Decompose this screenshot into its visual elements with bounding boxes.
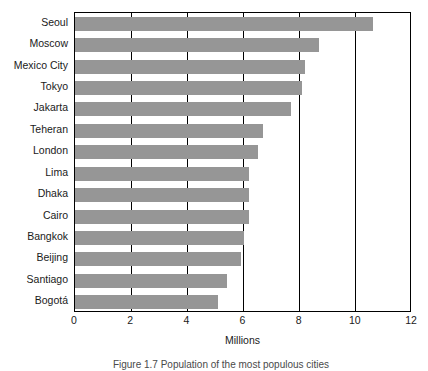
bar-bogotá xyxy=(75,295,218,309)
bar-teheran xyxy=(75,124,263,138)
bar-row xyxy=(75,81,410,95)
category-label-london: London xyxy=(0,145,68,156)
bar-beijing xyxy=(75,252,241,266)
bar-row xyxy=(75,17,410,31)
bar-tokyo xyxy=(75,81,302,95)
category-label-mexico-city: Mexico City xyxy=(0,60,68,71)
category-label-seoul: Seoul xyxy=(0,17,68,28)
bar-cairo xyxy=(75,210,249,224)
category-label-beijing: Beijing xyxy=(0,252,68,263)
category-label-tokyo: Tokyo xyxy=(0,81,68,92)
category-label-teheran: Teheran xyxy=(0,124,68,135)
bar-moscow xyxy=(75,38,319,52)
bar-series xyxy=(75,13,410,311)
x-tick-8: 8 xyxy=(296,314,302,326)
category-label-lima: Lima xyxy=(0,167,68,178)
bar-london xyxy=(75,145,258,159)
category-label-bogotá: Bogotá xyxy=(0,295,68,306)
bar-seoul xyxy=(75,17,373,31)
bar-dhaka xyxy=(75,188,249,202)
bar-row xyxy=(75,295,410,309)
bar-row xyxy=(75,274,410,288)
bar-lima xyxy=(75,167,249,181)
category-label-dhaka: Dhaka xyxy=(0,188,68,199)
category-label-bangkok: Bangkok xyxy=(0,231,68,242)
bar-mexico-city xyxy=(75,60,305,74)
x-tick-2: 2 xyxy=(127,314,133,326)
x-tick-4: 4 xyxy=(183,314,189,326)
x-tick-12: 12 xyxy=(405,314,417,326)
x-tick-0: 0 xyxy=(71,314,77,326)
bar-row xyxy=(75,188,410,202)
bar-row xyxy=(75,145,410,159)
bar-row xyxy=(75,210,410,224)
category-label-cairo: Cairo xyxy=(0,210,68,221)
bar-jakarta xyxy=(75,102,291,116)
category-label-moscow: Moscow xyxy=(0,38,68,49)
bar-row xyxy=(75,231,410,245)
bar-santiago xyxy=(75,274,227,288)
bar-bangkok xyxy=(75,231,244,245)
category-axis-labels: SeoulMoscowMexico CityTokyoJakartaTehera… xyxy=(0,12,68,312)
category-label-santiago: Santiago xyxy=(0,274,68,285)
bar-row xyxy=(75,124,410,138)
x-axis-title: Millions xyxy=(74,334,411,346)
x-tick-6: 6 xyxy=(240,314,246,326)
bar-row xyxy=(75,252,410,266)
plot-area xyxy=(74,12,411,312)
x-axis-tick-labels: 024681012 xyxy=(0,314,428,328)
figure-caption: Figure 1.7 Population of the most populo… xyxy=(26,359,416,371)
bar-row xyxy=(75,167,410,181)
bar-row xyxy=(75,38,410,52)
bar-row xyxy=(75,60,410,74)
plot-inner xyxy=(75,13,410,311)
category-label-jakarta: Jakarta xyxy=(0,102,68,113)
bar-row xyxy=(75,102,410,116)
x-tick-10: 10 xyxy=(349,314,361,326)
